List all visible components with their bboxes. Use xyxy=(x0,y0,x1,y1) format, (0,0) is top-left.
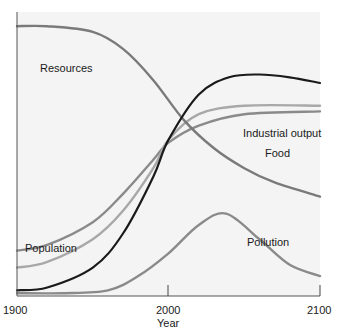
label-resources: Resources xyxy=(40,62,93,74)
label-pollution: Pollution xyxy=(247,236,289,248)
label-food: Food xyxy=(265,147,290,159)
label-industrial-output: Industrial output xyxy=(243,127,321,139)
x-tick-label-2100: 2100 xyxy=(307,304,331,316)
world-model-chart: 1900 2000 2100 Year Resources Industrial… xyxy=(0,0,342,333)
x-tick-label-2000: 2000 xyxy=(156,304,180,316)
label-population: Population xyxy=(25,242,77,254)
x-axis-title: Year xyxy=(157,317,180,329)
x-tick-label-1900: 1900 xyxy=(3,304,27,316)
